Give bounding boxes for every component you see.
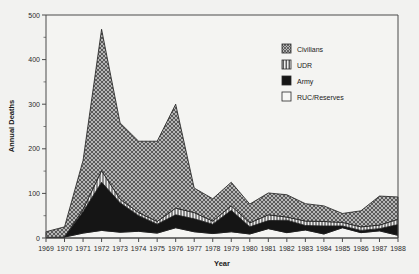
x-axis-title: Year [214, 259, 230, 268]
legend-label-udr: UDR [297, 62, 312, 69]
x-tick-label: 1977 [186, 245, 202, 252]
x-tick-label: 1982 [279, 245, 295, 252]
y-tick-label: 200 [28, 145, 40, 152]
stacked-area-chart: 0100200300400500 19691970197119721973197… [0, 0, 419, 274]
legend-label-ruc-reserves: RUC/Reserves [297, 94, 344, 101]
y-tick-label: 500 [28, 12, 40, 19]
x-tick-label: 1981 [261, 245, 277, 252]
x-tick-label: 1975 [149, 245, 165, 252]
legend-swatch-udr [282, 60, 291, 69]
x-tick-label: 1969 [38, 245, 54, 252]
x-tick-label: 1983 [298, 245, 314, 252]
y-tick-label: 100 [28, 190, 40, 197]
x-tick-label: 1984 [316, 245, 332, 252]
legend-swatch-civilians [282, 44, 291, 53]
x-tick-label: 1970 [57, 245, 73, 252]
x-tick-label: 1974 [131, 245, 147, 252]
y-tick-label: 0 [36, 235, 40, 242]
x-tick-label: 1980 [242, 245, 258, 252]
x-tick-label: 1979 [223, 245, 239, 252]
y-axis-title: Annual Deaths [7, 100, 16, 153]
legend-label-army: Army [297, 78, 314, 86]
legend-swatch-army [282, 76, 291, 85]
x-tick-label: 1976 [168, 245, 184, 252]
x-tick-label: 1988 [390, 245, 406, 252]
x-tick-label: 1972 [94, 245, 110, 252]
legend-label-civilians: Civilians [297, 46, 324, 53]
x-tick-label: 1986 [353, 245, 369, 252]
x-tick-label: 1973 [112, 245, 128, 252]
y-tick-label: 300 [28, 101, 40, 108]
y-tick-label: 400 [28, 56, 40, 63]
legend-swatch-ruc-reserves [282, 92, 291, 101]
x-tick-label: 1987 [372, 245, 388, 252]
chart-figure: 0100200300400500 19691970197119721973197… [0, 0, 419, 274]
x-tick-label: 1985 [335, 245, 351, 252]
x-tick-label: 1971 [75, 245, 91, 252]
x-tick-label: 1978 [205, 245, 221, 252]
